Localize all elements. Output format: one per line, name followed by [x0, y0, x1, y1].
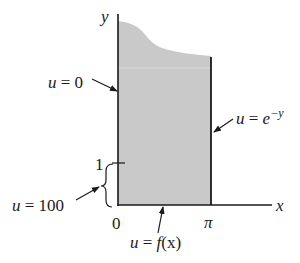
right-bc-label: u = e−y	[236, 106, 284, 128]
left-bc-label: u = 0	[48, 73, 83, 92]
arrow-right-bc	[214, 119, 233, 132]
shaded-region	[118, 21, 211, 205]
bottom-bc-label: u = f(x)	[130, 233, 181, 252]
arrow-segment-bc	[76, 187, 99, 200]
x-axis-label: x	[275, 196, 284, 215]
arrow-bottom-bc	[158, 207, 163, 233]
origin-label: 0	[112, 214, 121, 233]
segment-bc-label: u = 100	[12, 196, 64, 215]
arrow-left-bc	[92, 79, 117, 91]
boundary-value-diagram: y x 0 π 1 u = 0 u = e−y u = 100 u = f(x)	[0, 0, 300, 263]
y-tick-1-label: 1	[95, 155, 104, 174]
y-axis-label: y	[99, 7, 109, 26]
pi-tick-label: π	[204, 213, 213, 232]
